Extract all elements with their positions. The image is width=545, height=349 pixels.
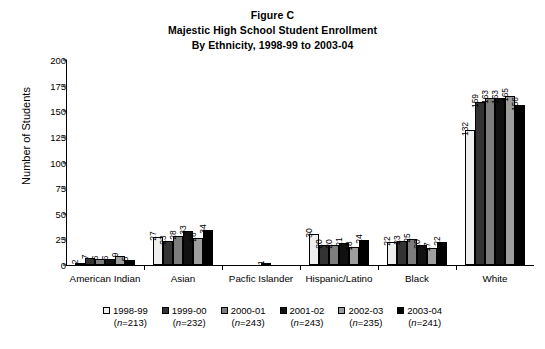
legend-sample-size: (n=232) [172, 317, 207, 329]
bar-value-label: 23 [393, 236, 402, 245]
bar-slot: 34 [203, 60, 213, 265]
bar-slot: 27 [153, 60, 163, 265]
bar-slot: 6 [95, 60, 105, 265]
legend-swatch [280, 307, 287, 314]
legend-sample-size: (n=213) [113, 317, 148, 329]
bar-value-label: 6 [101, 255, 110, 260]
bar-value-label: 156 [511, 97, 520, 111]
bar-value-label: 20 [325, 239, 334, 248]
bar-value-label: 26 [189, 233, 198, 242]
bar[interactable] [485, 98, 495, 265]
bar-slot: 9 [115, 60, 125, 265]
bar-slot: 21 [339, 60, 349, 265]
bar-slot: 132 [465, 60, 475, 265]
bar-value-label: 23 [159, 236, 168, 245]
bar-group: 222325201722 [378, 60, 456, 265]
bar-slot: 165 [505, 60, 515, 265]
legend-item[interactable]: 2003-04(n=241) [397, 305, 442, 328]
x-axis-group-tick [222, 265, 223, 270]
bar-value-label: 30 [305, 229, 314, 238]
bar[interactable] [475, 102, 485, 265]
bar-value-label: 163 [481, 90, 490, 104]
bar-value-label: 33 [179, 225, 188, 234]
x-axis-group-tick [144, 265, 145, 270]
bar-slot: 5 [125, 60, 135, 265]
bar-group: 132159163163165156 [456, 60, 534, 265]
legend-sample-size: (n=241) [407, 317, 442, 329]
legend-label: 2001-02(n=243) [290, 305, 325, 328]
bar-value-label: 34 [199, 224, 208, 233]
bar-slot [281, 60, 291, 265]
x-axis-group-tick [300, 265, 301, 270]
bar[interactable] [515, 105, 525, 265]
bar-value-label: 6 [91, 255, 100, 260]
bar-group: 272328332634 [144, 60, 222, 265]
legend-sample-size: (n=243) [231, 317, 266, 329]
bar-group-bars: 276695 [66, 60, 144, 265]
bar-slot: 22 [437, 60, 447, 265]
figure-title: Figure C Majestic High School Student En… [0, 8, 545, 53]
bar-group-bars: 1 [222, 60, 300, 265]
legend-swatch [162, 307, 169, 314]
bar-slot: 30 [309, 60, 319, 265]
bar-slot [271, 60, 281, 265]
legend-swatch [338, 307, 345, 314]
bar-value-label: 1 [257, 261, 266, 266]
bar[interactable] [495, 98, 505, 265]
legend-label: 1999-00(n=232) [172, 305, 207, 328]
bar-value-label: 20 [315, 239, 324, 248]
bar-value-label: 7 [81, 254, 90, 259]
bar[interactable] [203, 230, 213, 265]
bar[interactable] [437, 242, 447, 265]
bar[interactable] [163, 241, 173, 265]
bar-value-label: 165 [501, 88, 510, 102]
legend-item[interactable]: 2002-03(n=235) [338, 305, 383, 328]
bar-value-label: 5 [121, 257, 130, 262]
bar[interactable] [505, 96, 515, 265]
title-line-2: Majestic High School Student Enrollment [0, 23, 545, 38]
legend-label: 1998-99(n=213) [113, 305, 148, 328]
bar[interactable] [193, 238, 203, 265]
bar-slot: 7 [85, 60, 95, 265]
bar-group: 302020211824 [300, 60, 378, 265]
x-axis-group-tick [378, 265, 379, 270]
bar-slot: 20 [417, 60, 427, 265]
legend-label: 2003-04(n=241) [407, 305, 442, 328]
title-line-1: Figure C [0, 8, 545, 23]
legend-item[interactable]: 1999-00(n=232) [162, 305, 207, 328]
bar-slot: 24 [359, 60, 369, 265]
chart-legend: 1998-99(n=213)1999-00(n=232)2000-01(n=24… [0, 305, 545, 328]
x-axis-category-label: American Indian [70, 273, 141, 284]
bar-slot: 17 [427, 60, 437, 265]
legend-item[interactable]: 1998-99(n=213) [103, 305, 148, 328]
bar-slot: 156 [515, 60, 525, 265]
bar-value-label: 2 [71, 260, 80, 265]
bar-slot: 22 [387, 60, 397, 265]
bar-group: 1 [222, 60, 300, 265]
x-axis-group-tick [456, 265, 457, 270]
bar-slot: 2 [75, 60, 85, 265]
bar[interactable] [465, 130, 475, 265]
bar[interactable] [173, 236, 183, 265]
bar-value-label: 25 [403, 234, 412, 243]
legend-sample-size: (n=235) [348, 317, 383, 329]
bar[interactable] [387, 242, 397, 265]
bar[interactable] [397, 241, 407, 265]
bar-group-bars: 302020211824 [300, 60, 378, 265]
legend-item[interactable]: 2000-01(n=243) [221, 305, 266, 328]
bar-slot [251, 60, 261, 265]
bar-slot: 6 [105, 60, 115, 265]
bar[interactable] [359, 240, 369, 265]
bar-slot [241, 60, 251, 265]
bar-slot: 26 [193, 60, 203, 265]
bar-group-bars: 132159163163165156 [456, 60, 534, 265]
legend-swatch [397, 307, 404, 314]
bar-chart: Number of Students 025507510012515017520… [0, 52, 545, 302]
x-axis-category-label: Pacfic Islander [229, 273, 293, 284]
legend-label: 2002-03(n=235) [348, 305, 383, 328]
bar-group-bars: 272328332634 [144, 60, 222, 265]
bar-value-label: 159 [471, 94, 480, 108]
title-line-3: By Ethnicity, 1998-99 to 2003-04 [0, 38, 545, 53]
legend-item[interactable]: 2001-02(n=243) [280, 305, 325, 328]
bar-value-label: 17 [423, 242, 432, 251]
